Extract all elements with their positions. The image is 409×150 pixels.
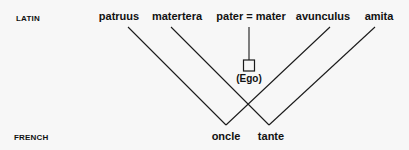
term-tante: tante	[258, 130, 284, 142]
ego-square-icon	[244, 60, 255, 71]
line-amita-tante	[269, 27, 375, 125]
line-patruus-oncle	[128, 27, 226, 125]
link-lines	[0, 0, 409, 150]
term-oncle: oncle	[212, 130, 241, 142]
ego-label: (Ego)	[236, 73, 262, 84]
